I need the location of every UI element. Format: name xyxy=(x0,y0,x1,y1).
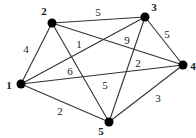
edge-weight-2-4: 1 xyxy=(76,39,82,50)
edge-weight-4-5: 3 xyxy=(155,93,161,104)
node-1 xyxy=(17,80,26,89)
edge-weight-1-5: 2 xyxy=(57,106,63,117)
graph-edges xyxy=(0,0,196,138)
node-3 xyxy=(141,13,150,22)
node-label-3: 3 xyxy=(151,2,157,13)
node-label-2: 2 xyxy=(41,6,47,17)
node-label-5: 5 xyxy=(98,126,104,137)
graph-diagram: 455321965212345 xyxy=(0,0,196,138)
edge-weight-2-3: 5 xyxy=(95,7,101,18)
node-5 xyxy=(105,118,114,127)
edge-weight-1-2: 4 xyxy=(23,44,29,55)
edge-1-3 xyxy=(21,17,145,84)
node-2 xyxy=(48,19,57,28)
edge-weight-1-3: 9 xyxy=(124,35,130,46)
edge-weight-2-5: 5 xyxy=(102,80,108,91)
edge-1-5 xyxy=(21,84,109,122)
node-label-4: 4 xyxy=(190,61,196,72)
node-label-1: 1 xyxy=(6,80,12,91)
edge-3-4 xyxy=(145,17,183,65)
edge-2-3 xyxy=(52,17,145,23)
edge-weight-1-4: 6 xyxy=(67,66,73,77)
edge-4-5 xyxy=(109,65,183,122)
node-4 xyxy=(179,61,188,70)
edge-weight-3-4: 5 xyxy=(164,29,170,40)
edge-weight-3-5: 2 xyxy=(135,58,141,69)
